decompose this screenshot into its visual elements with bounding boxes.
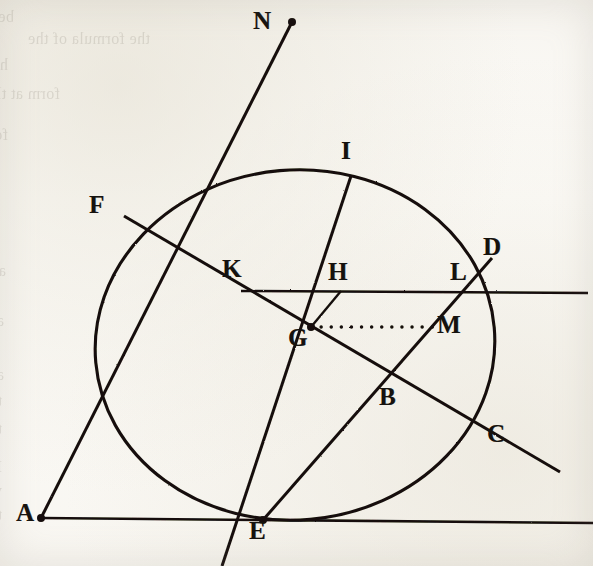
line-I-low xyxy=(222,176,351,566)
point-label-E: E xyxy=(249,518,266,543)
line-H-G xyxy=(311,291,341,327)
scanned-page: be centre of gravitythe formula of theha… xyxy=(0,0,593,566)
point-dot-A xyxy=(37,514,45,522)
line-N-A xyxy=(41,22,292,518)
point-dot-N xyxy=(288,18,296,26)
line-K-axis xyxy=(241,291,588,293)
point-label-N: N xyxy=(253,8,271,33)
point-label-H: H xyxy=(328,259,347,284)
point-label-D: D xyxy=(483,234,501,259)
point-label-L: L xyxy=(450,259,467,284)
point-dot-G xyxy=(307,323,315,331)
point-label-M: M xyxy=(437,312,461,337)
geometric-figure xyxy=(0,0,593,566)
point-label-G: G xyxy=(288,325,307,350)
construction-lines xyxy=(41,22,593,566)
point-label-B: B xyxy=(379,384,396,409)
point-markers xyxy=(37,18,315,524)
ink-strokes xyxy=(37,18,593,566)
point-label-C: C xyxy=(487,421,505,446)
point-label-K: K xyxy=(222,256,241,281)
point-label-F: F xyxy=(89,192,104,217)
line-E-D xyxy=(263,258,492,520)
point-label-A: A xyxy=(16,500,34,525)
point-label-I: I xyxy=(341,138,351,163)
